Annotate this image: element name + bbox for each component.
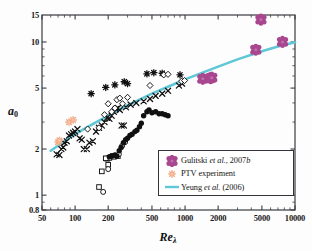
y-tick-label: 5	[35, 83, 39, 93]
x-tick-label: 10000	[285, 213, 305, 223]
x-tick-label: 500	[146, 213, 158, 223]
x-tick-label: 200	[102, 213, 114, 223]
ptv-marker-icon	[163, 168, 181, 180]
x-tick-label: 50	[38, 213, 46, 223]
x-tick-label: 100	[69, 213, 81, 223]
legend-item-yeung: Yeung et al. (2006)	[163, 181, 290, 194]
series-filled-cluster-flower	[197, 13, 288, 84]
x-tick-label: 1000	[177, 213, 193, 223]
figure-container: 5010020050010002000500010000 0.81251015 …	[0, 0, 312, 251]
y-tick-label: 2	[35, 144, 39, 154]
series-yeung-line	[51, 42, 295, 150]
gulitski-marker-icon	[163, 155, 181, 167]
chart-legend: Gulitski et al., 2007b PTV experiment Ye…	[158, 150, 294, 196]
legend-label-gulitski: Gulitski et al., 2007b	[181, 156, 250, 165]
legend-label-ptv: PTV experiment	[181, 169, 235, 178]
legend-item-gulitski: Gulitski et al., 2007b	[163, 154, 290, 167]
y-tick-label: 0.8	[29, 205, 39, 215]
x-axis-label: Reλ	[160, 230, 177, 245]
y-tick-label: 10	[31, 37, 39, 47]
x-tick-label: 5000	[254, 213, 270, 223]
legend-item-ptv: PTV experiment	[163, 167, 290, 180]
yeung-line-icon	[163, 181, 181, 193]
y-tick-label: 1	[35, 190, 39, 200]
x-tick-label: 2000	[210, 213, 226, 223]
y-axis-label: a0	[8, 104, 18, 119]
y-tick-label: 15	[31, 10, 39, 20]
legend-label-yeung: Yeung et al. (2006)	[181, 183, 244, 192]
